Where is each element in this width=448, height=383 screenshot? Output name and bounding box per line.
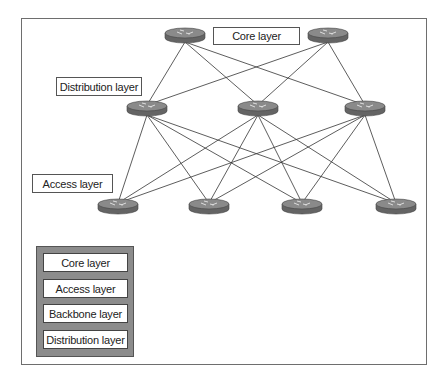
link	[328, 42, 365, 105]
link	[147, 115, 396, 203]
link	[185, 42, 365, 105]
link	[118, 115, 365, 203]
answer-options-panel: Core layer Access layer Backbone layer D…	[36, 246, 134, 357]
link	[118, 115, 147, 203]
distribution-router-icon-1	[127, 101, 167, 116]
option-backbone-layer[interactable]: Backbone layer	[43, 304, 128, 323]
option-core-layer[interactable]: Core layer	[43, 253, 128, 272]
routers	[98, 28, 416, 214]
option-access-layer[interactable]: Access layer	[43, 279, 128, 298]
link	[209, 115, 365, 203]
access-router-icon-1	[98, 199, 138, 214]
link	[147, 42, 328, 105]
access-layer-label[interactable]: Access layer	[32, 174, 113, 193]
link	[118, 115, 258, 203]
core-router-icon-2	[308, 28, 348, 43]
core-router-icon-1	[165, 28, 205, 43]
distribution-router-icon-2	[238, 101, 278, 116]
access-router-icon-3	[282, 199, 322, 214]
core-layer-label[interactable]: Core layer	[213, 27, 300, 45]
link	[147, 115, 209, 203]
option-distribution-layer[interactable]: Distribution layer	[43, 330, 128, 349]
distribution-router-icon-3	[345, 101, 385, 116]
link	[258, 42, 328, 105]
link	[302, 115, 365, 203]
link	[258, 115, 302, 203]
link	[185, 42, 258, 105]
access-router-icon-4	[376, 199, 416, 214]
link	[147, 42, 185, 105]
access-router-icon-2	[189, 199, 229, 214]
distribution-layer-label[interactable]: Distribution layer	[56, 77, 142, 96]
link	[209, 115, 258, 203]
link	[365, 115, 396, 203]
links	[118, 42, 396, 203]
